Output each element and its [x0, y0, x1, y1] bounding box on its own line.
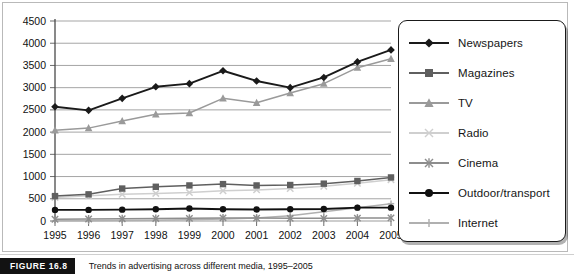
- x-axis-tick-label: 2001: [245, 229, 269, 241]
- series-radio: [52, 176, 394, 200]
- x-axis-tick-label: 1996: [77, 229, 101, 241]
- legend-marker-circle-icon: [409, 186, 449, 200]
- legend-item-outdoor-transport[interactable]: Outdoor/transport: [399, 178, 565, 208]
- series-tv: [51, 55, 395, 134]
- x-axis-tick-label: 2000: [211, 229, 235, 241]
- x-axis-tick-label: 2004: [346, 229, 370, 241]
- figure-container: 0500100015002000250030003500400045001995…: [0, 0, 574, 274]
- x-axis-tick-label: 2002: [279, 229, 303, 241]
- legend-item-cinema[interactable]: Cinema: [399, 148, 565, 178]
- legend-item-radio[interactable]: Radio: [399, 118, 565, 148]
- legend-marker-asterisk-icon: [409, 156, 449, 170]
- y-axis-tick-label: 1500: [23, 148, 47, 160]
- series-outdoor-transport: [52, 204, 394, 213]
- legend-item-newspapers[interactable]: Newspapers: [399, 28, 565, 58]
- y-axis-tick-label: 0: [40, 215, 46, 227]
- legend-item-label: Internet: [458, 217, 498, 229]
- legend-marker-plus-icon: [409, 216, 449, 230]
- legend-item-internet[interactable]: Internet: [399, 208, 565, 238]
- y-axis-tick-label: 2500: [23, 103, 47, 115]
- x-axis-tick-label: 1998: [144, 229, 168, 241]
- x-axis-tick-label: 1997: [111, 229, 135, 241]
- figure-number-badge: FIGURE 16.8: [0, 258, 75, 274]
- figure-caption-text: Trends in advertising across different m…: [75, 258, 313, 274]
- legend-item-tv[interactable]: TV: [399, 88, 565, 118]
- legend-marker-diamond-icon: [409, 36, 449, 50]
- series-newspapers: [51, 46, 395, 114]
- y-axis-tick-label: 4000: [23, 37, 47, 49]
- legend-item-label: Cinema: [458, 157, 498, 169]
- y-axis-tick-label: 3000: [23, 81, 47, 93]
- legend-item-label: Magazines: [458, 67, 515, 79]
- legend-item-label: TV: [458, 97, 473, 109]
- chart-legend: NewspapersMagazinesTVRadioCinemaOutdoor/…: [398, 20, 566, 242]
- legend-marker-square-icon: [409, 66, 449, 80]
- x-axis-tick-label: 2003: [312, 229, 336, 241]
- x-axis-tick-label: 1995: [43, 229, 67, 241]
- y-axis-tick-label: 1000: [23, 170, 47, 182]
- chart-frame: 0500100015002000250030003500400045001995…: [2, 2, 568, 252]
- y-axis-tick-label: 4500: [23, 15, 47, 27]
- legend-item-magazines[interactable]: Magazines: [399, 58, 565, 88]
- legend-item-label: Outdoor/transport: [458, 187, 550, 199]
- figure-caption: FIGURE 16.8 Trends in advertising across…: [0, 258, 574, 274]
- legend-marker-triangle-icon: [409, 96, 449, 110]
- y-axis-tick-label: 2000: [23, 126, 47, 138]
- legend-item-label: Radio: [458, 127, 489, 139]
- plot-area: 0500100015002000250030003500400045001995…: [3, 3, 401, 253]
- y-axis-tick-label: 500: [28, 192, 46, 204]
- y-axis-tick-label: 3500: [23, 59, 47, 71]
- line-chart: 0500100015002000250030003500400045001995…: [3, 3, 401, 253]
- legend-marker-x-light-icon: [409, 126, 449, 140]
- caption-divider: [0, 254, 574, 255]
- series-cinema: [52, 214, 394, 223]
- x-axis-tick-label: 1999: [178, 229, 202, 241]
- legend-item-label: Newspapers: [458, 37, 523, 49]
